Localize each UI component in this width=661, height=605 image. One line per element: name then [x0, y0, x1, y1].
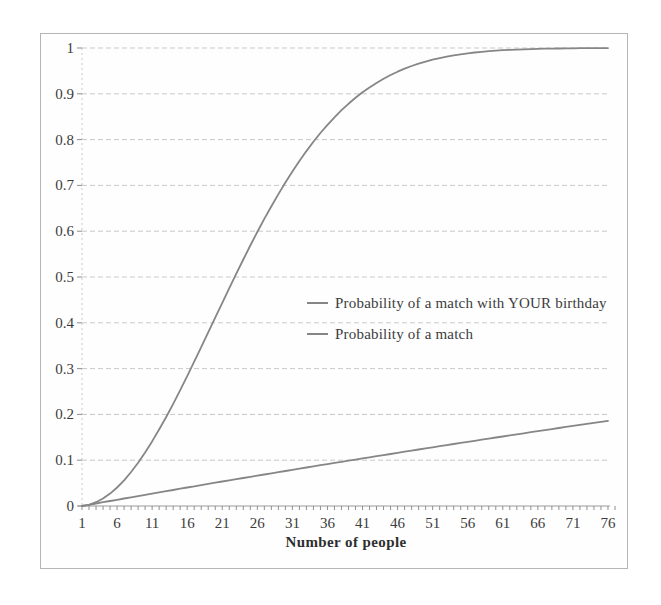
svg-text:0.9: 0.9 [55, 86, 74, 102]
svg-text:56: 56 [460, 515, 476, 531]
y-ticks [77, 48, 82, 506]
legend-line-icon [307, 333, 328, 335]
y-tick-labels: 00.10.20.30.40.50.60.70.80.91 [55, 40, 74, 514]
svg-text:31: 31 [285, 515, 300, 531]
y-gridlines [82, 48, 610, 460]
svg-text:0.8: 0.8 [55, 132, 74, 148]
svg-text:66: 66 [530, 515, 546, 531]
svg-text:46: 46 [390, 515, 406, 531]
svg-text:1: 1 [78, 515, 86, 531]
svg-text:0.5: 0.5 [55, 269, 74, 285]
svg-text:71: 71 [565, 515, 580, 531]
svg-text:21: 21 [215, 515, 230, 531]
svg-text:0.7: 0.7 [55, 177, 74, 193]
svg-text:0.1: 0.1 [55, 452, 74, 468]
svg-text:36: 36 [320, 515, 336, 531]
svg-text:0.2: 0.2 [55, 406, 74, 422]
series-your-birthday-line [82, 421, 608, 506]
x-axis-title: Number of people [82, 534, 610, 551]
svg-text:0.4: 0.4 [55, 315, 74, 331]
svg-text:1: 1 [67, 40, 75, 56]
svg-text:0: 0 [67, 498, 75, 514]
svg-text:76: 76 [600, 515, 616, 531]
svg-text:16: 16 [180, 515, 196, 531]
svg-text:0.3: 0.3 [55, 361, 74, 377]
svg-text:51: 51 [425, 515, 440, 531]
svg-text:6: 6 [113, 515, 121, 531]
svg-text:41: 41 [355, 515, 370, 531]
legend-label-any-match: Probability of a match [335, 326, 473, 343]
legend-line-icon [307, 302, 328, 304]
svg-text:0.6: 0.6 [55, 223, 74, 239]
scanned-chart-page: 00.10.20.30.40.50.60.70.80.9116111621263… [0, 0, 661, 605]
legend-entry-any-match: Probability of a match [307, 325, 473, 343]
chart-frame: 00.10.20.30.40.50.60.70.80.9116111621263… [40, 33, 628, 569]
legend-entry-your-birthday: Probability of a match with YOUR birthda… [307, 294, 607, 312]
svg-text:11: 11 [145, 515, 159, 531]
svg-text:61: 61 [495, 515, 510, 531]
x-tick-labels: 161116212631364146515661667176 [78, 515, 616, 531]
legend-label-your-birthday: Probability of a match with YOUR birthda… [335, 295, 607, 312]
svg-text:26: 26 [250, 515, 266, 531]
series-any-match-line [82, 48, 608, 506]
